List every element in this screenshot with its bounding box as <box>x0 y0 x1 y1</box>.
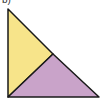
triangle-diagram <box>0 0 102 105</box>
